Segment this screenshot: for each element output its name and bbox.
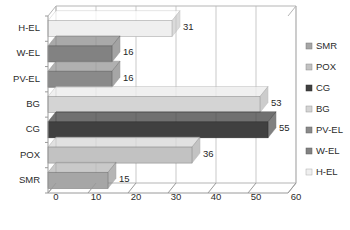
bar-SMR <box>48 162 116 188</box>
bar-H-EL <box>48 11 180 37</box>
bar-top-face <box>48 36 120 46</box>
legend-swatch-W-EL <box>306 148 312 154</box>
legend-swatch-BG <box>306 106 312 112</box>
x-tick-label-30: 30 <box>171 191 182 202</box>
category-label-H-EL: H-EL <box>18 22 40 33</box>
x-tick-label-50: 50 <box>251 191 262 202</box>
bar-top-face <box>48 112 276 122</box>
legend-swatch-SMR <box>306 43 312 49</box>
legend-item-BG[interactable]: BG <box>306 103 330 114</box>
chart-svg: H-ELW-ELPV-ELBGCGPOXSMR 0102030405060 31… <box>0 0 350 230</box>
bar-top-face <box>48 162 116 172</box>
legend-swatch-H-EL <box>306 169 312 175</box>
legend-swatch-CG <box>306 85 312 91</box>
legend-label-CG: CG <box>316 82 330 93</box>
value-label-SMR: 15 <box>119 173 130 184</box>
x-tick-label-0: 0 <box>53 191 58 202</box>
bar-chart: H-ELW-ELPV-ELBGCGPOXSMR 0102030405060 31… <box>0 0 350 230</box>
value-label-CG: 55 <box>279 122 290 133</box>
category-label-SMR: SMR <box>19 174 40 185</box>
category-label-BG: BG <box>26 98 40 109</box>
depth-connector <box>288 6 296 16</box>
bars-group <box>48 11 276 189</box>
legend-item-POX[interactable]: POX <box>306 61 337 72</box>
legend-item-CG[interactable]: CG <box>306 82 330 93</box>
value-label-BG: 53 <box>271 97 282 108</box>
value-label-PV-EL: 16 <box>123 72 134 83</box>
bar-front-face <box>48 97 260 113</box>
bar-W-EL <box>48 36 120 62</box>
legend-item-W-EL[interactable]: W-EL <box>306 145 340 156</box>
legend-label-BG: BG <box>316 103 330 114</box>
chart-figure: H-ELW-ELPV-ELBGCGPOXSMR 0102030405060 31… <box>0 0 350 230</box>
category-label-CG: CG <box>26 123 40 134</box>
legend-swatch-POX <box>306 64 312 70</box>
category-label-PV-EL: PV-EL <box>13 73 40 84</box>
value-label-H-EL: 31 <box>183 21 194 32</box>
legend-swatch-PV-EL <box>306 127 312 133</box>
bar-front-face <box>48 147 192 163</box>
x-tick-label-20: 20 <box>131 191 142 202</box>
value-label-W-EL: 16 <box>123 46 134 57</box>
bar-front-face <box>48 71 112 87</box>
bar-top-face <box>48 87 268 97</box>
category-label-W-EL: W-EL <box>16 47 40 58</box>
legend-item-H-EL[interactable]: H-EL <box>306 166 338 177</box>
bar-front-face <box>48 46 112 62</box>
bar-POX <box>48 137 200 163</box>
legend-label-POX: POX <box>316 61 337 72</box>
legend-item-SMR[interactable]: SMR <box>306 40 337 51</box>
x-tick-label-10: 10 <box>91 191 102 202</box>
bar-front-face <box>48 21 172 37</box>
bar-BG <box>48 87 268 113</box>
legend-label-SMR: SMR <box>316 40 337 51</box>
bar-top-face <box>48 61 120 71</box>
bar-front-face <box>48 122 268 138</box>
legend-label-H-EL: H-EL <box>316 166 338 177</box>
category-label-POX: POX <box>20 149 41 160</box>
legend-item-PV-EL[interactable]: PV-EL <box>306 124 343 135</box>
category-labels-group: H-ELW-ELPV-ELBGCGPOXSMR <box>13 22 41 185</box>
x-tick-label-60: 60 <box>291 191 302 202</box>
value-label-POX: 36 <box>203 148 214 159</box>
x-tick-label-40: 40 <box>211 191 222 202</box>
legend-label-W-EL: W-EL <box>316 145 340 156</box>
bar-CG <box>48 112 276 138</box>
bar-PV-EL <box>48 61 120 87</box>
legend-label-PV-EL: PV-EL <box>316 124 343 135</box>
legend: SMRPOXCGBGPV-ELW-ELH-EL <box>306 40 343 177</box>
bar-front-face <box>48 172 108 188</box>
bar-top-face <box>48 137 200 147</box>
bar-top-face <box>48 11 180 21</box>
